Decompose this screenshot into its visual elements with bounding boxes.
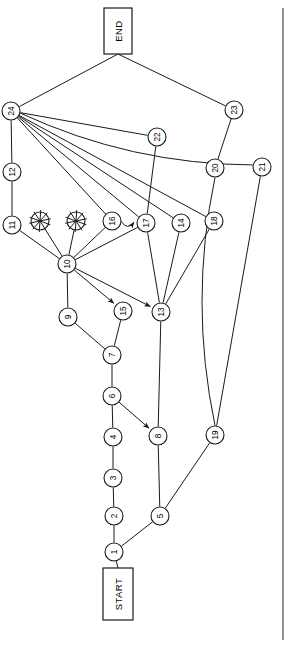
edge-7-to-15 [114,320,120,346]
edge-10-to-11 [20,230,60,258]
edge-21-to-19 [217,176,261,425]
edge-24-to-18 [19,116,205,217]
node-label-21: 21 [258,162,267,172]
node-9[interactable]: 9 [59,308,77,326]
terminal-end[interactable]: END [104,8,132,54]
node-label-17: 17 [142,218,151,228]
edge-12-to-24 [11,120,12,162]
node-2[interactable]: 2 [105,507,123,525]
edge-10-to-15 [74,270,114,303]
node-14[interactable]: 14 [172,214,190,232]
node-label-19: 19 [211,430,220,440]
node-label-3: 3 [109,475,118,480]
node-8[interactable]: 8 [149,427,167,445]
edge-24-to-16 [17,118,105,214]
edge-24-to-21 [20,113,252,165]
edge-10-to-u1 [45,229,62,256]
node-6[interactable]: 6 [103,387,121,405]
node-12[interactable]: 12 [3,163,21,181]
edge-14-to-13 [163,232,179,302]
edge-6-to-8 [119,402,149,428]
node-label-13: 13 [157,307,166,317]
node-label-12: 12 [8,167,17,177]
edge-24-to-22 [20,113,147,136]
node-3[interactable]: 3 [104,469,122,487]
edge-4-to-6 [112,405,113,427]
node-label-10: 10 [63,259,72,269]
terminal-label-end: END [113,20,124,41]
node-11[interactable]: 11 [3,216,21,234]
node-1[interactable]: 1 [105,543,123,561]
graph-diagram: STARTEND12345678910111213141516171819202… [0,0,291,645]
node-u2[interactable] [65,210,87,232]
edge-8-to-13 [158,321,161,426]
edge-9-to-10 [67,273,68,307]
node-label-8: 8 [154,433,163,438]
node-13[interactable]: 13 [152,303,170,321]
edge-23-to-20 [218,119,231,159]
node-17[interactable]: 17 [137,214,155,232]
node-label-15: 15 [119,306,128,316]
node-4[interactable]: 4 [104,428,122,446]
edge-5-to-19 [165,443,209,508]
node-label-6: 6 [108,393,117,398]
terminal-start[interactable]: START [103,568,133,620]
edge-23-to-END [118,54,225,106]
node-u1[interactable] [29,210,51,232]
node-20[interactable]: 20 [206,159,224,177]
node-label-24: 24 [7,106,16,116]
node-label-9: 9 [64,314,73,319]
node-22[interactable]: 22 [148,128,166,146]
edge-24-to-17 [18,117,138,217]
node-label-23: 23 [230,105,239,115]
edge-10-to-u2 [69,230,74,254]
edge-START-to-1 [116,561,118,568]
edge-10-to-17 [75,227,137,259]
edge-10-to-16 [74,228,105,258]
edge-10-to-13 [75,268,150,306]
node-layer: STARTEND12345678910111213141516171819202… [2,8,271,620]
terminal-label-start: START [113,578,124,610]
edge-17-to-13 [148,232,160,302]
node-label-5: 5 [156,513,165,518]
edge-7-to-9 [75,323,105,349]
node-23[interactable]: 23 [225,101,243,119]
node-label-1: 1 [110,549,119,554]
edge-layer [11,54,260,568]
node-label-22: 22 [153,132,162,142]
edge-1-to-5 [121,522,152,546]
edge-24-to-END [19,54,118,107]
node-10[interactable]: 10 [58,255,76,273]
node-21[interactable]: 21 [253,158,271,176]
node-7[interactable]: 7 [103,346,121,364]
node-19[interactable]: 19 [206,426,224,444]
edge-2-to-3 [113,487,114,506]
graph-canvas: STARTEND12345678910111213141516171819202… [0,0,291,645]
node-label-7: 7 [108,352,117,357]
node-15[interactable]: 15 [114,302,132,320]
node-label-14: 14 [177,218,186,228]
edge-5-to-8 [158,445,160,506]
node-24[interactable]: 24 [2,102,20,120]
node-18[interactable]: 18 [205,212,223,230]
node-label-18: 18 [210,216,219,226]
node-label-4: 4 [109,434,118,439]
node-label-11: 11 [8,220,17,229]
node-label-20: 20 [211,163,220,173]
node-16[interactable]: 16 [103,212,121,230]
node-label-16: 16 [108,216,117,226]
edge-16-to-17 [121,222,134,227]
node-5[interactable]: 5 [151,507,169,525]
node-label-2: 2 [110,513,119,518]
